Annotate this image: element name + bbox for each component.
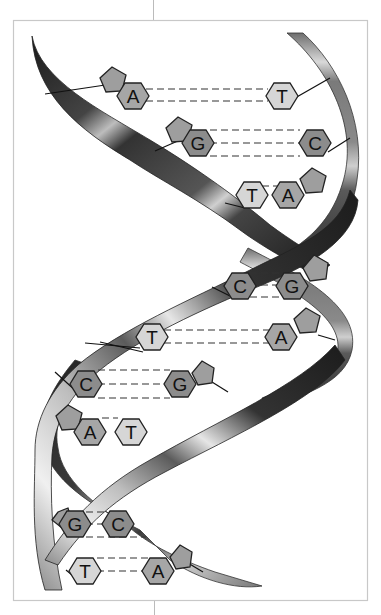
dna-double-helix-diagram: A T G C T A C G — [0, 0, 381, 615]
base-label: T — [79, 561, 91, 582]
base-label: A — [282, 185, 295, 206]
base-label: G — [68, 514, 83, 535]
base-label: C — [233, 276, 247, 297]
base-label: A — [127, 86, 140, 107]
base-label: G — [191, 133, 206, 154]
base-label: T — [146, 327, 158, 348]
base-label: G — [173, 374, 188, 395]
base-label: G — [285, 276, 300, 297]
base-label: A — [84, 422, 97, 443]
base-label: A — [152, 561, 165, 582]
base-label: T — [276, 86, 288, 107]
base-label: C — [308, 133, 322, 154]
base-label: C — [111, 514, 125, 535]
base-label: T — [246, 185, 258, 206]
base-label: A — [275, 327, 288, 348]
base-label: C — [79, 374, 93, 395]
base-label: T — [125, 422, 137, 443]
